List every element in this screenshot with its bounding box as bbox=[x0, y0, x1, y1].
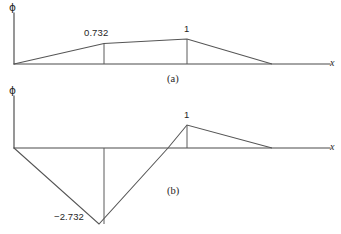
panel-b-curve bbox=[14, 125, 272, 224]
panel-a-value-label-1: 1 bbox=[184, 24, 189, 34]
figure-root: ϕ x 0.732 1 (a) ϕ x 1 −2.732 (b) bbox=[0, 0, 341, 234]
panel-b-y-axis-label: ϕ bbox=[9, 85, 16, 96]
panel-a-y-axis-label: ϕ bbox=[9, 2, 16, 13]
panel-b-group bbox=[14, 96, 330, 224]
panel-a-curve bbox=[14, 39, 272, 64]
panel-a-group bbox=[14, 13, 330, 64]
plot-vector-layer bbox=[0, 0, 341, 234]
panel-a-x-axis-label: x bbox=[330, 58, 334, 68]
panel-b-value-label-neg2732: −2.732 bbox=[54, 212, 84, 222]
panel-b-caption: (b) bbox=[167, 186, 179, 197]
panel-b-value-label-1: 1 bbox=[184, 110, 189, 120]
panel-b-x-axis-label: x bbox=[330, 142, 334, 152]
panel-a-caption: (a) bbox=[167, 74, 179, 85]
panel-a-value-label-0732: 0.732 bbox=[84, 28, 108, 38]
